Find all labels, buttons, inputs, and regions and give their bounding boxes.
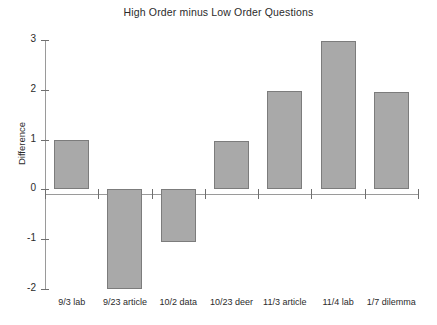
y-axis-tick <box>41 289 49 290</box>
bar <box>374 92 409 189</box>
y-axis-tick <box>41 40 49 41</box>
y-axis-tick-label: 3 <box>8 33 36 44</box>
y-axis-tick-label: -2 <box>8 282 36 293</box>
x-axis-tick <box>152 189 153 199</box>
x-axis-tick-label: 11/4 lab <box>322 297 353 307</box>
x-axis-line <box>45 194 418 195</box>
bar-chart: High Order minus Low Order Questions Dif… <box>0 0 437 325</box>
x-axis-tick <box>258 189 259 199</box>
x-axis-tick-label: 10/23 deer <box>210 297 253 307</box>
bar <box>54 140 89 190</box>
plot-area: 3210-1-2 9/3 lab9/23 article10/2 data10/… <box>0 0 437 325</box>
bar <box>267 91 302 189</box>
y-axis-tick <box>41 239 49 240</box>
x-axis-tick <box>205 189 206 199</box>
y-axis-tick-label: 2 <box>8 83 36 94</box>
bar <box>214 141 249 190</box>
bar <box>161 189 196 241</box>
y-axis-tick <box>41 140 49 141</box>
y-axis-line <box>45 40 46 289</box>
x-axis-tick-label: 9/23 article <box>103 297 147 307</box>
x-axis-tick <box>98 189 99 199</box>
x-axis-tick <box>365 189 366 199</box>
y-axis-tick-label: 1 <box>8 133 36 144</box>
x-axis-tick-label: 9/3 lab <box>58 297 85 307</box>
x-axis-tick <box>418 189 419 199</box>
x-axis-tick-label: 11/3 article <box>263 297 306 307</box>
x-axis-tick-label: 1/7 dilemma <box>367 297 416 307</box>
bar <box>107 189 142 289</box>
x-axis-tick-label: 10/2 data <box>159 297 197 307</box>
bar <box>321 41 356 189</box>
y-axis-tick <box>41 90 49 91</box>
y-axis-tick-label: 0 <box>8 182 36 193</box>
x-axis-tick <box>45 189 46 199</box>
y-axis-tick-label: -1 <box>8 232 36 243</box>
x-axis-tick <box>311 189 312 199</box>
